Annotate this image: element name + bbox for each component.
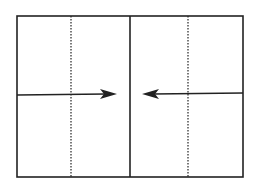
right-arrow [142, 89, 243, 99]
fold-diagram [0, 0, 257, 188]
left-arrow [17, 89, 117, 99]
